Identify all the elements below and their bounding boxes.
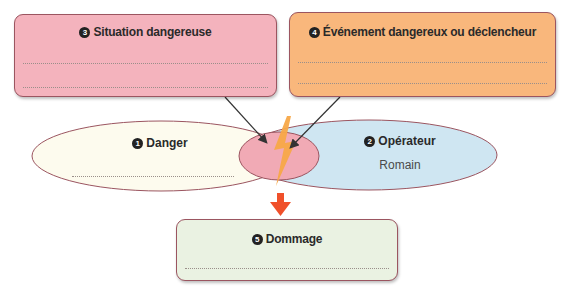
operateur-value: Romain xyxy=(340,158,460,172)
number-badge: 1 xyxy=(132,138,143,149)
number-badge: 3 xyxy=(79,27,90,38)
danger-title: 1Danger xyxy=(100,136,220,150)
dommage-box: 5Dommage xyxy=(176,219,398,281)
situation-dangereuse-title: 3Situation dangereuse xyxy=(15,25,276,39)
number-badge: 4 xyxy=(309,27,320,38)
operateur-title: 2Opérateur xyxy=(330,134,470,148)
down-arrow-icon xyxy=(270,193,291,216)
dommage-title: 5Dommage xyxy=(177,232,397,246)
answer-line-2[interactable] xyxy=(298,83,547,84)
evenement-dangereux-title: 4Événement dangereux ou déclencheur xyxy=(290,25,555,39)
number-badge: 2 xyxy=(364,136,375,147)
answer-line-1[interactable] xyxy=(185,268,389,269)
answer-line-1[interactable] xyxy=(23,63,268,64)
situation-dangereuse-box: 3Situation dangereuse xyxy=(14,14,277,97)
number-badge: 5 xyxy=(252,234,263,245)
answer-line-1[interactable] xyxy=(298,62,547,63)
evenement-dangereux-box: 4Événement dangereux ou déclencheur xyxy=(289,12,556,97)
danger-answer-line[interactable] xyxy=(72,176,234,177)
answer-line-2[interactable] xyxy=(23,87,268,88)
